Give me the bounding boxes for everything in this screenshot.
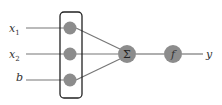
sum-symbol: Σ bbox=[123, 48, 131, 61]
input-node-x2 bbox=[64, 48, 77, 61]
perceptron-diagram: x1 x2 b Σ f y bbox=[0, 0, 222, 105]
input-label-b: b bbox=[16, 71, 23, 84]
input-label-x1: x1 bbox=[9, 22, 20, 37]
input-label-x2: x2 bbox=[9, 48, 20, 63]
output-label-y: y bbox=[205, 48, 213, 61]
input-node-x1 bbox=[64, 22, 77, 35]
edge-x1-sum bbox=[76, 28, 122, 50]
input-node-b bbox=[64, 74, 77, 87]
edge-b-sum bbox=[76, 58, 122, 80]
